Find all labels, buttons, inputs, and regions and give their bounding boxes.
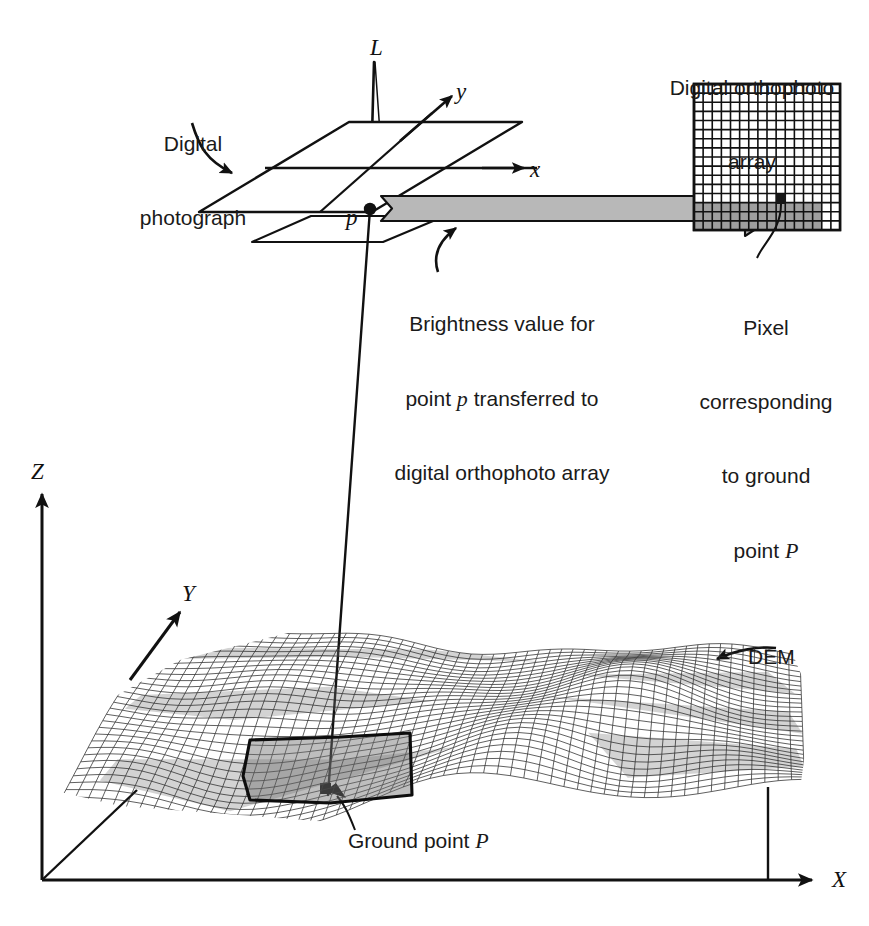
label-ground-point-italic-P: P [475,828,488,853]
label-pixel-line2: corresponding [668,390,864,415]
label-ground-point-text: Ground point [348,829,475,852]
orthophoto-diagram-figure: Digital photograph Digital orthophoto ar… [0,0,869,926]
label-orthophoto-array: Digital orthophoto array [637,26,867,224]
label-axis-x: x [530,156,540,183]
label-brightness-line2-b: transferred to [468,387,599,410]
label-orthophoto-array-line1: Digital orthophoto [637,76,867,101]
label-brightness-line2-italic-p: p [457,386,468,411]
label-pixel-note: Pixel corresponding to ground point P [668,266,864,614]
label-dem: DEM [748,645,795,670]
label-pixel-line3: to ground [668,464,864,489]
label-brightness-note: Brightness value for point p transferred… [352,262,652,536]
label-brightness-line2-a: point [405,387,456,410]
label-axis-Z: Z [31,458,44,485]
label-axis-Y: Y [182,580,195,607]
label-brightness-line3: digital orthophoto array [352,461,652,486]
label-digital-photograph-line2: photograph [118,206,268,231]
label-pixel-line4: point P [668,538,864,564]
label-pixel-line4-a: point [734,539,785,562]
label-axis-X: X [832,866,846,893]
label-brightness-line2: point p transferred to [352,386,652,412]
label-image-point-p: p [346,204,358,231]
label-digital-photograph: Digital photograph [118,82,268,280]
label-pixel-line4-italic-P: P [785,538,798,563]
dem-patch-shaded-face [243,733,412,803]
label-axis-L: L [370,34,383,61]
label-digital-photograph-line1: Digital [118,132,268,157]
label-ground-point: Ground point P [348,828,489,854]
dem-highlight-patch [243,733,412,803]
dem-wireframe-mesh [55,631,805,830]
label-brightness-line1: Brightness value for [352,312,652,337]
label-axis-y: y [456,78,466,105]
label-orthophoto-array-line2: array [637,150,867,175]
label-pixel-line1: Pixel [668,316,864,341]
